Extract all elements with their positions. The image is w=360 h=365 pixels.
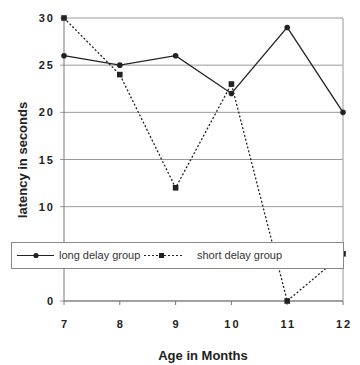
square-marker-icon <box>229 81 235 87</box>
x-tick-label: 8 <box>117 318 125 330</box>
square-marker-icon <box>159 253 164 258</box>
square-marker-icon <box>284 298 290 304</box>
x-tick-label: 12 <box>336 318 352 330</box>
legend: long delay group short delay group <box>11 242 344 269</box>
series-line-long-delay <box>64 27 343 112</box>
y-tick-label: 10 <box>39 201 55 213</box>
circle-marker-icon <box>117 62 123 68</box>
circle-marker-icon <box>284 25 290 31</box>
legend-label-long-delay: long delay group <box>59 249 140 261</box>
legend-label-short-delay: short delay group <box>197 249 282 261</box>
circle-marker-icon <box>173 53 179 59</box>
y-tick-label: 15 <box>39 154 55 166</box>
square-marker-icon <box>173 185 179 191</box>
x-tick-labels: 789101112 <box>61 318 352 330</box>
y-tick-label: 25 <box>39 59 55 71</box>
y-tick-label: 20 <box>39 106 55 118</box>
x-tick-label: 9 <box>173 318 181 330</box>
circle-marker-icon <box>33 253 38 258</box>
square-marker-icon <box>61 15 67 21</box>
y-tick-label: 30 <box>39 12 55 24</box>
circle-marker-icon <box>340 110 346 116</box>
x-tick-label: 10 <box>224 318 240 330</box>
square-marker-icon <box>117 72 123 78</box>
line-chart: 01015202530 789101112 Age in Months late… <box>0 0 360 365</box>
y-axis-title: latency in seconds <box>15 102 30 218</box>
x-axis-title: Age in Months <box>158 348 248 363</box>
circle-marker-icon <box>61 53 67 59</box>
x-tick-label: 11 <box>280 318 296 330</box>
y-tick-label: 0 <box>47 295 55 307</box>
x-tick-label: 7 <box>61 318 69 330</box>
